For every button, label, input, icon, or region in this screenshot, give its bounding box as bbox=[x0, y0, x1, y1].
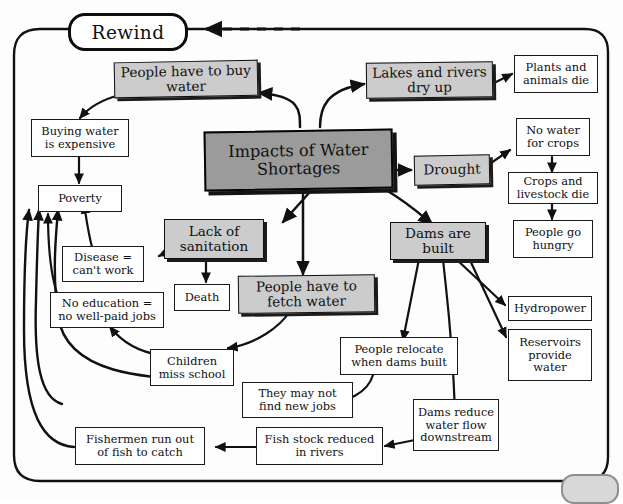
partial-next-button[interactable] bbox=[561, 474, 619, 504]
node-label: People have to fetch water bbox=[242, 278, 371, 310]
node-reservoirs-provide-water[interactable]: Reservoirs provide water bbox=[508, 329, 592, 381]
node-hydropower[interactable]: Hydropower bbox=[508, 296, 592, 321]
node-dams-are-built[interactable]: Dams are built bbox=[390, 222, 486, 260]
node-label: Fish stock reduced in rivers bbox=[260, 433, 379, 459]
node-label: Disease = can't work bbox=[66, 251, 140, 277]
node-label: No water for crops bbox=[520, 124, 586, 150]
rewind-label: Rewind bbox=[92, 22, 165, 43]
node-people-have-to-fetch-water[interactable]: People have to fetch water bbox=[238, 274, 375, 314]
node-label: Hydropower bbox=[514, 302, 586, 315]
node-label: Dams are built bbox=[394, 226, 482, 256]
node-label: Crops and livestock die bbox=[512, 175, 594, 201]
node-label: Plants and animals die bbox=[518, 61, 594, 87]
node-label: People go hungry bbox=[517, 226, 589, 252]
node-label: People have to buy water bbox=[118, 62, 255, 95]
node-label: Reservoirs provide water bbox=[512, 336, 588, 374]
node-people-relocate-when-dams-built[interactable]: People relocate when dams built bbox=[340, 337, 458, 375]
node-plants-and-animals-die[interactable]: Plants and animals die bbox=[514, 55, 598, 93]
node-label: No education = no well-paid jobs bbox=[54, 297, 160, 323]
node-label: Lakes and rivers dry up bbox=[370, 64, 489, 96]
rewind-button[interactable]: Rewind bbox=[68, 13, 188, 51]
node-dams-reduce-water-flow-downstream[interactable]: Dams reduce water flow downstream bbox=[413, 399, 499, 451]
node-poverty[interactable]: Poverty bbox=[38, 185, 122, 212]
node-label: Impacts of Water Shortages bbox=[209, 140, 389, 179]
node-label: People relocate when dams built bbox=[344, 343, 454, 369]
node-people-have-to-buy-water[interactable]: People have to buy water bbox=[114, 60, 259, 99]
node-label: They may not find new jobs bbox=[246, 387, 349, 413]
node-no-water-for-crops[interactable]: No water for crops bbox=[516, 118, 590, 156]
node-death[interactable]: Death bbox=[174, 284, 230, 311]
node-disease-cant-work[interactable]: Disease = can't work bbox=[62, 246, 144, 282]
node-fish-stock-reduced-in-rivers[interactable]: Fish stock reduced in rivers bbox=[256, 427, 383, 465]
node-drought[interactable]: Drought bbox=[414, 154, 491, 185]
node-label: Fishermen run out of fish to catch bbox=[79, 433, 201, 459]
node-label: Death bbox=[185, 291, 220, 304]
node-crops-and-livestock-die[interactable]: Crops and livestock die bbox=[508, 172, 598, 204]
node-people-go-hungry[interactable]: People go hungry bbox=[513, 220, 593, 258]
node-impacts-of-water-shortages[interactable]: Impacts of Water Shortages bbox=[204, 129, 394, 192]
node-lack-of-sanitation[interactable]: Lack of sanitation bbox=[164, 219, 264, 259]
node-label: Buying water is expensive bbox=[35, 125, 125, 151]
node-label: Dams reduce water flow downstream bbox=[417, 406, 495, 444]
node-no-education-no-well-paid-jobs[interactable]: No education = no well-paid jobs bbox=[50, 292, 164, 328]
node-label: Lack of sanitation bbox=[168, 224, 260, 254]
node-fishermen-run-out-of-fish[interactable]: Fishermen run out of fish to catch bbox=[75, 427, 205, 465]
node-label: Poverty bbox=[58, 192, 102, 205]
node-they-may-not-find-new-jobs[interactable]: They may not find new jobs bbox=[242, 382, 353, 418]
node-buying-water-is-expensive[interactable]: Buying water is expensive bbox=[31, 119, 129, 157]
node-label: Children miss school bbox=[154, 355, 230, 381]
node-lakes-and-rivers-dry-up[interactable]: Lakes and rivers dry up bbox=[366, 61, 493, 99]
node-children-miss-school[interactable]: Children miss school bbox=[150, 349, 234, 386]
node-label: Drought bbox=[423, 162, 481, 178]
